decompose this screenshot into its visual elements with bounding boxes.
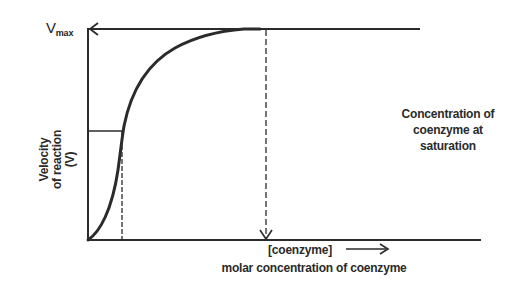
vmax-label: Vmax	[46, 21, 73, 40]
saturation-label-line2: coenzyme at	[388, 122, 508, 138]
saturation-label-line3: saturation	[388, 138, 508, 154]
y-axis-label-line3: (V)	[64, 95, 77, 225]
y-axis-label: Velocity of reaction (V)	[38, 95, 77, 225]
saturation-label-line1: Concentration of	[388, 106, 508, 122]
x-axis-label-short: [coenzyme]	[268, 243, 332, 257]
velocity-curve	[88, 29, 260, 240]
saturation-label: Concentration of coenzyme at saturation	[388, 106, 508, 154]
x-axis-label-long: molar concentration of coenzyme	[154, 261, 474, 275]
